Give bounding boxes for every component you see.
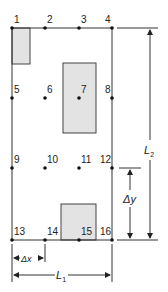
top-left-region [12, 28, 30, 64]
dimension-L2 [117, 28, 158, 240]
node-label-10: 10 [47, 154, 59, 165]
node-label-7: 7 [81, 84, 87, 95]
shaded-regions [12, 28, 96, 240]
finite-difference-grid-diagram: 12345678910111213141516 L2 Δy Δx L1 [0, 0, 168, 292]
node-label-3: 3 [81, 14, 87, 25]
delta-y-label: Δy [122, 193, 137, 205]
node-label-5: 5 [14, 84, 20, 95]
node-label-14: 14 [47, 226, 59, 237]
node-5 [10, 96, 14, 100]
delta-x-label: Δx [20, 254, 32, 264]
node-7 [77, 96, 81, 100]
node-label-1: 1 [14, 14, 20, 25]
node-13 [10, 238, 14, 242]
node-12 [110, 166, 114, 170]
node-8 [110, 96, 114, 100]
node-3 [77, 26, 81, 30]
node-4 [110, 26, 114, 30]
node-15 [77, 238, 81, 242]
node-6 [43, 96, 47, 100]
node-label-16: 16 [100, 226, 112, 237]
node-label-13: 13 [14, 226, 26, 237]
node-label-4: 4 [105, 14, 111, 25]
node-16 [110, 238, 114, 242]
node-2 [43, 26, 47, 30]
node-label-15: 15 [81, 226, 93, 237]
node-label-11: 11 [81, 154, 92, 165]
node-label-8: 8 [105, 84, 111, 95]
L2-label: L2 [144, 144, 154, 158]
node-label-9: 9 [14, 154, 20, 165]
node-14 [43, 238, 47, 242]
L1-label: L1 [56, 269, 66, 283]
node-label-2: 2 [47, 14, 53, 25]
node-9 [10, 166, 14, 170]
node-label-12: 12 [100, 154, 112, 165]
node-10 [43, 166, 47, 170]
node-1 [10, 26, 14, 30]
node-label-6: 6 [47, 84, 53, 95]
node-11 [77, 166, 81, 170]
